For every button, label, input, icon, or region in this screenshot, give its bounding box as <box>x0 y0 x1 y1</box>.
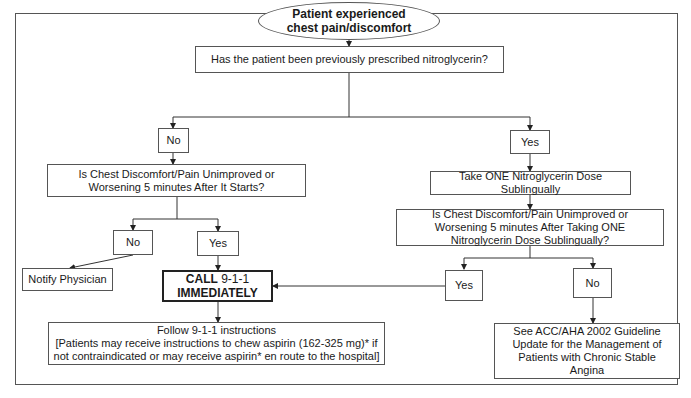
answer-yes-nitroglycerin: Yes <box>510 130 550 154</box>
no-label: No <box>166 134 180 147</box>
start-node: Patient experienced chest pain/discomfor… <box>258 2 440 40</box>
no-label: No <box>126 236 140 249</box>
yes-label: Yes <box>209 237 227 250</box>
see-acc-aha-guideline: See ACC/AHA 2002 Guideline Update for th… <box>494 323 680 379</box>
take-one-nitroglycerin: Take ONE Nitroglycerin Dose Sublingually <box>430 171 631 195</box>
immediately-label: IMMEDIATELY <box>177 286 258 300</box>
call-911-immediately: CALL 9-1-1 IMMEDIATELY <box>162 270 273 302</box>
no-label: No <box>585 277 599 290</box>
question-5-minutes-label: Is Chest Discomfort/Pain Unimproved or W… <box>54 168 299 194</box>
answer-no-5-minutes: No <box>113 230 153 255</box>
yes-label: Yes <box>455 279 473 292</box>
answer-no-after-dose: No <box>573 268 612 298</box>
answer-yes-after-dose: Yes <box>445 270 483 301</box>
question-5-minutes: Is Chest Discomfort/Pain Unimproved or W… <box>47 164 306 197</box>
answer-no-nitroglycerin: No <box>158 128 189 153</box>
follow-detail: [Patients may receive instructions to ch… <box>53 337 380 363</box>
notify-label: Notify Physician <box>28 273 106 286</box>
call-label: CALL <box>186 272 218 286</box>
notify-physician: Notify Physician <box>22 268 113 291</box>
follow-title: Follow 9-1-1 instructions <box>157 324 276 337</box>
answer-yes-5-minutes: Yes <box>197 231 239 256</box>
see-acc-label: See ACC/AHA 2002 Guideline Update for th… <box>505 325 669 377</box>
question-nitroglycerin-prescribed: Has the patient been previously prescrib… <box>195 46 504 73</box>
follow-911-instructions: Follow 9-1-1 instructions [Patients may … <box>48 322 385 365</box>
yes-label: Yes <box>521 136 539 149</box>
question-after-dose: Is Chest Discomfort/Pain Unimproved or W… <box>396 209 664 246</box>
call-number: 9-1-1 <box>218 272 249 286</box>
take-one-label: Take ONE Nitroglycerin Dose Sublingually <box>431 170 630 196</box>
question-after-dose-label: Is Chest Discomfort/Pain Unimproved or W… <box>405 208 655 247</box>
question-nitroglycerin-label: Has the patient been previously prescrib… <box>211 53 488 66</box>
start-label: Patient experienced chest pain/discomfor… <box>281 7 417 35</box>
